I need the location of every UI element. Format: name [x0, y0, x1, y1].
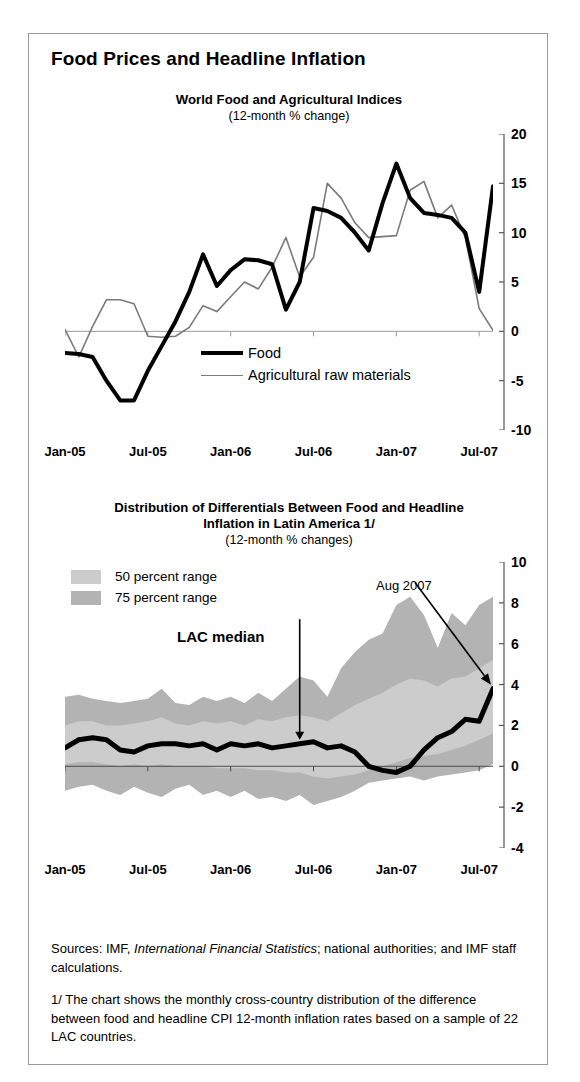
- y-tick-labels-bottom: 1086420-2-4: [511, 562, 557, 848]
- figure-frame: Food Prices and Headline Inflation World…: [28, 33, 548, 1065]
- x-tick-label: Jan-06: [210, 862, 251, 877]
- footnote-sources: Sources: IMF, International Financial St…: [51, 940, 525, 977]
- panel-title-top: World Food and Agricultural Indices: [29, 92, 549, 108]
- footnote-sources-italic: International Financial Statistics: [134, 941, 317, 956]
- y-tick-label: -10: [511, 423, 531, 437]
- y-tick-label: 20: [511, 127, 527, 141]
- panel-subtitle-bottom: (12-month % changes): [29, 532, 549, 548]
- legend-world-food-agri: Food Agricultural raw materials: [201, 342, 411, 386]
- x-tick-label: Jul-06: [295, 444, 333, 459]
- legend-label-75-percent-range: 75 percent range: [115, 590, 217, 606]
- x-tick-labels-bottom: Jan-05Jul-05Jan-06Jul-06Jan-07Jul-07: [29, 862, 549, 880]
- legend-label-agricultural-raw-materials: Agricultural raw materials: [248, 367, 411, 383]
- x-tick-label: Jul-05: [129, 862, 167, 877]
- y-axis-top: [493, 134, 507, 430]
- x-tick-label: Jul-07: [460, 862, 498, 877]
- annotation-aug-2007: Aug 2007: [376, 578, 432, 593]
- x-tick-label: Jan-06: [210, 444, 251, 459]
- footnote-sources-prefix: Sources: IMF,: [51, 941, 134, 956]
- y-tick-label: -4: [511, 841, 523, 855]
- y-tick-label: -5: [511, 374, 523, 388]
- panel-world-food-agri: World Food and Agricultural Indices (12-…: [29, 92, 549, 492]
- range-75-swatch-icon: [71, 591, 101, 605]
- y-tick-label: 10: [511, 555, 527, 569]
- legend-item-75-percent-range: 75 percent range: [71, 587, 217, 608]
- x-tick-label: Jul-06: [295, 862, 333, 877]
- y-tick-label: -2: [511, 800, 523, 814]
- x-tick-label: Jan-05: [44, 862, 85, 877]
- x-tick-label: Jan-07: [376, 862, 417, 877]
- x-tick-label: Jan-07: [376, 444, 417, 459]
- legend-label-50-percent-range: 50 percent range: [115, 569, 217, 585]
- panel-title-bottom-line1: Distribution of Differentials Between Fo…: [29, 500, 549, 516]
- x-tick-label: Jan-05: [44, 444, 85, 459]
- panel-subtitle-top: (12-month % change): [29, 108, 549, 124]
- y-tick-label: 2: [511, 718, 519, 732]
- legend-item-agricultural-raw-materials: Agricultural raw materials: [201, 364, 411, 386]
- y-tick-labels-top: 20151050-5-10: [511, 134, 557, 430]
- agricultural-raw-materials-line-swatch-icon: [201, 375, 243, 376]
- y-tick-label: 8: [511, 596, 519, 610]
- y-tick-label: 15: [511, 176, 527, 190]
- y-axis-bottom: [493, 562, 507, 848]
- y-tick-label: 0: [511, 759, 519, 773]
- food-line-swatch-icon: [201, 351, 243, 355]
- legend-item-food: Food: [201, 342, 411, 364]
- x-tick-label: Jul-07: [460, 444, 498, 459]
- y-tick-label: 0: [511, 324, 519, 338]
- panel-lac-distribution: Distribution of Differentials Between Fo…: [29, 500, 549, 920]
- page-title: Food Prices and Headline Inflation: [51, 48, 366, 70]
- legend-lac-distribution: 50 percent range 75 percent range: [71, 566, 217, 608]
- range-50-swatch-icon: [71, 570, 101, 584]
- x-tick-labels-top: Jan-05Jul-05Jan-06Jul-06Jan-07Jul-07: [29, 444, 549, 462]
- panel-title-bottom-line2: Inflation in Latin America 1/: [29, 516, 549, 532]
- y-tick-label: 6: [511, 637, 519, 651]
- footnotes: Sources: IMF, International Financial St…: [51, 940, 525, 1061]
- y-tick-label: 10: [511, 226, 527, 240]
- y-tick-label: 4: [511, 678, 519, 692]
- annotation-lac-median: LAC median: [177, 628, 265, 645]
- x-tick-label: Jul-05: [129, 444, 167, 459]
- y-tick-label: 5: [511, 275, 519, 289]
- legend-label-food: Food: [248, 345, 281, 361]
- footnote-note: 1/ The chart shows the monthly cross-cou…: [51, 991, 525, 1047]
- legend-item-50-percent-range: 50 percent range: [71, 566, 217, 587]
